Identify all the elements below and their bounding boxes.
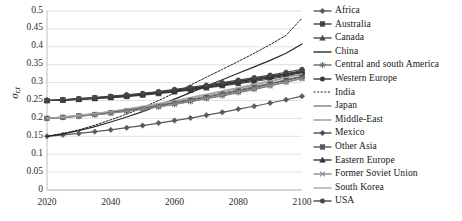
y-axis-title-subscript: r,t <box>13 87 22 93</box>
legend-marker-icon <box>313 127 332 139</box>
legend-label: Other Asia <box>335 140 377 154</box>
x-tick-label: 2080 <box>218 197 258 207</box>
plot-area: σr,t 00.050.10.150.20.250.30.350.40.450.… <box>0 0 312 221</box>
legend-marker-icon <box>313 73 332 85</box>
legend-label: Canada <box>335 31 364 45</box>
legend-marker-icon <box>313 114 332 126</box>
legend-marker-icon <box>313 182 332 194</box>
y-tick-label: 0.15 <box>13 130 43 140</box>
legend-item-usa[interactable]: USA <box>312 194 462 208</box>
legend-item-middle-east[interactable]: Middle-East <box>312 113 462 127</box>
legend-label: Eastern Europe <box>335 154 395 168</box>
series-middle-east <box>47 74 302 118</box>
y-tick-label: 0.25 <box>13 94 43 104</box>
y-tick-label: 0.1 <box>13 148 43 158</box>
chart-container: σr,t 00.050.10.150.20.250.30.350.40.450.… <box>0 0 462 221</box>
legend-item-south-korea[interactable]: South Korea <box>312 181 462 195</box>
legend-item-eastern-europe[interactable]: Eastern Europe <box>312 154 462 168</box>
plot-svg <box>0 0 312 221</box>
y-tick-label: 0.5 <box>13 5 43 15</box>
x-tick-label: 2020 <box>27 197 67 207</box>
legend-label: USA <box>335 194 354 208</box>
legend-label: South Korea <box>335 181 384 195</box>
legend-label: Mexico <box>335 126 365 140</box>
legend-marker-icon <box>313 18 332 30</box>
series-eastern-europe <box>44 69 305 103</box>
x-tick-label: 2060 <box>155 197 195 207</box>
legend-marker-icon <box>313 154 332 166</box>
y-tick-label: 0.4 <box>13 40 43 50</box>
legend-marker-icon <box>313 100 332 112</box>
chart-legend: AfricaAustraliaCanadaChinaCentral and so… <box>312 4 462 217</box>
legend-marker-icon <box>313 32 332 44</box>
y-tick-label: 0 <box>13 184 43 194</box>
legend-item-central-and-south-america[interactable]: Central and south America <box>312 58 462 72</box>
legend-item-former-soviet-union[interactable]: Former Soviet Union <box>312 167 462 181</box>
legend-label: Former Soviet Union <box>335 167 418 181</box>
legend-marker-icon <box>313 168 332 180</box>
legend-marker-icon <box>313 5 332 17</box>
y-tick-label: 0.05 <box>13 166 43 176</box>
legend-item-canada[interactable]: Canada <box>312 31 462 45</box>
legend-marker-icon <box>313 46 332 58</box>
legend-label: Japan <box>335 99 357 113</box>
x-tick-label: 2040 <box>91 197 131 207</box>
legend-marker-icon <box>313 86 332 98</box>
legend-label: Africa <box>335 4 360 18</box>
legend-item-western-europe[interactable]: Western Europe <box>312 72 462 86</box>
legend-label: India <box>335 86 355 100</box>
legend-label: China <box>335 45 358 59</box>
y-tick-label: 0.45 <box>13 22 43 32</box>
legend-marker-icon <box>313 59 332 71</box>
legend-item-india[interactable]: India <box>312 86 462 100</box>
legend-label: Australia <box>335 18 371 32</box>
legend-item-africa[interactable]: Africa <box>312 4 462 18</box>
legend-item-australia[interactable]: Australia <box>312 18 462 32</box>
legend-marker-icon <box>313 195 332 207</box>
legend-label: Western Europe <box>335 72 397 86</box>
y-tick-label: 0.2 <box>13 112 43 122</box>
legend-marker-icon <box>313 141 332 153</box>
legend-label: Central and south America <box>335 58 439 72</box>
y-tick-label: 0.3 <box>13 76 43 86</box>
legend-label: Middle-East <box>335 113 383 127</box>
legend-item-china[interactable]: China <box>312 45 462 59</box>
legend-item-japan[interactable]: Japan <box>312 99 462 113</box>
legend-item-other-asia[interactable]: Other Asia <box>312 140 462 154</box>
y-tick-label: 0.35 <box>13 58 43 68</box>
legend-item-mexico[interactable]: Mexico <box>312 126 462 140</box>
